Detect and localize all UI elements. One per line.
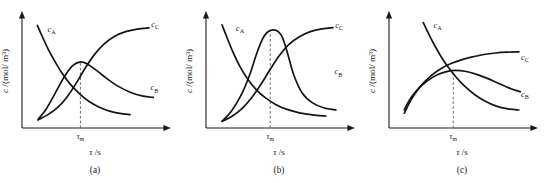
panel-caption: (a) [90, 165, 100, 176]
y-axis-arrow-icon [19, 11, 25, 19]
curve-label-c-b: cB [150, 83, 158, 93]
x-tick-label-tau-m: τm [77, 132, 85, 142]
curve-label-c-a: cA [236, 24, 245, 34]
y-axis-arrow-icon [386, 11, 392, 19]
panel-caption: (b) [273, 165, 284, 176]
curve-label-c-c: cC [521, 53, 529, 63]
y-axis-title: c /(mol/ m³) [184, 49, 194, 93]
y-axis-title: c /(mol/ m³) [0, 49, 10, 93]
curve-label-c-a: cA [48, 25, 57, 35]
x-axis-arrow-icon [163, 125, 171, 131]
curve-c-c [38, 28, 149, 120]
curve-label-c-a: cA [434, 21, 443, 31]
x-axis-title: τ /s [89, 147, 101, 157]
x-axis-title: τ /s [273, 147, 285, 157]
curve-c-b [222, 30, 336, 121]
x-tick-label-tau-m: τm [450, 132, 458, 142]
curve-label-c-c: cC [335, 21, 343, 31]
figure-three-panel-concentration-plots: cAcBcCτmτ /sc /(mol/ m³)(a)cAcBcCτmτ /sc… [0, 0, 551, 183]
curve-label-c-c: cC [151, 20, 159, 30]
curve-c-b [405, 70, 521, 109]
y-axis-arrow-icon [202, 11, 208, 19]
x-axis-title: τ /s [456, 147, 468, 157]
curve-label-c-b: cB [521, 90, 529, 100]
panel-a: cAcBcCτmτ /sc /(mol/ m³)(a) [0, 0, 184, 183]
panel-b: cAcBcCτmτ /sc /(mol/ m³)(b) [184, 0, 368, 183]
curve-label-c-b: cB [334, 67, 342, 77]
x-axis-arrow-icon [531, 125, 539, 131]
x-tick-label-tau-m: τm [266, 132, 274, 142]
curve-c-b [38, 62, 153, 120]
y-axis-title: c /(mol/ m³) [367, 49, 377, 93]
curve-c-c [222, 28, 333, 122]
panel-caption: (c) [457, 165, 467, 176]
curve-c-a [423, 23, 519, 110]
x-axis-arrow-icon [347, 125, 355, 131]
panel-c: cAcBcCτmτ /sc /(mol/ m³)(c) [367, 0, 551, 183]
